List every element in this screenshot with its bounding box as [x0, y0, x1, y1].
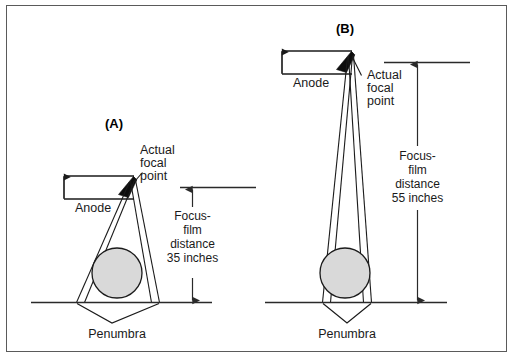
panel-a: (A) Anode Penumbra [31, 116, 256, 341]
panel-b-focal-point-label-line2: focal [367, 81, 393, 95]
panel-a-object-circle [92, 248, 142, 298]
panel-a-focal-point-label-line3: point [140, 169, 168, 183]
panel-b-focal-point-label-line3: point [367, 94, 395, 108]
panel-b-anode-label: Anode [293, 76, 329, 90]
figure-root: (A) Anode Penumbra [0, 0, 517, 363]
panel-b-focal-point-label-line1: Actual [367, 68, 402, 82]
panel-a-focus-film-line4: 35 inches [167, 251, 218, 265]
panel-b-penumbra-bracket [323, 304, 371, 324]
panel-b-focus-film-line1: Focus- [399, 149, 436, 163]
panel-a-label: (A) [105, 116, 123, 131]
panel-a-penumbra-label: Penumbra [88, 327, 146, 341]
panel-a-focus-film-line1: Focus- [174, 209, 211, 223]
panel-a-focus-film-line2: film [183, 223, 202, 237]
panel-a-focal-point-label-line1: Actual [140, 143, 175, 157]
panel-b-focus-film-line3: distance [395, 177, 440, 191]
panel-b-focus-film-line4: 55 inches [392, 191, 443, 205]
panel-b-label: (B) [336, 21, 354, 36]
panel-a-penumbra-bracket [77, 304, 159, 324]
panel-b: (B) Anode Penumbra Actual [265, 21, 470, 341]
figure-canvas: (A) Anode Penumbra [0, 0, 517, 363]
panel-b-penumbra-label: Penumbra [318, 327, 376, 341]
panel-a-focal-point-label-line2: focal [140, 156, 166, 170]
panel-b-focus-film-line2: film [408, 163, 427, 177]
panel-a-anode-label: Anode [75, 201, 111, 215]
panel-b-object-circle [320, 248, 370, 298]
panel-a-focus-film-line3: distance [170, 237, 215, 251]
